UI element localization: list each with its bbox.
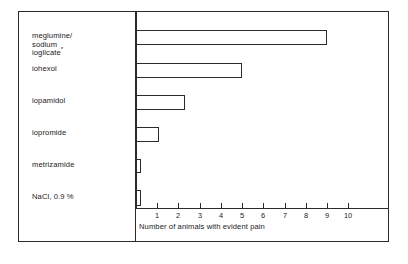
x-tick-label-3: 3 xyxy=(198,211,202,220)
bar-iohexol xyxy=(136,63,242,78)
x-tick-label-9: 9 xyxy=(325,211,329,220)
category-label-nacl: NaCl, 0.9 % xyxy=(32,193,132,202)
plot-area: 1 2 3 4 5 6 7 8 9 10 Number of animals w… xyxy=(136,12,388,241)
x-tick-label-1: 1 xyxy=(155,211,159,220)
bar-metrizamide xyxy=(136,159,141,173)
bar-iopromide xyxy=(136,127,159,142)
category-label-line3: ioglicate xyxy=(32,48,61,57)
x-tick-label-7: 7 xyxy=(283,211,287,220)
x-tick-5 xyxy=(242,203,243,208)
x-tick-label-8: 8 xyxy=(304,211,308,220)
x-tick-label-2: 2 xyxy=(176,211,180,220)
category-label-iopromide: iopromide xyxy=(32,129,132,138)
x-tick-3 xyxy=(200,203,201,208)
bar-meglumine-sodium-ioglicate xyxy=(136,30,327,45)
chart-figure: meglumine/sodiumioglicate* iohexol iopam… xyxy=(18,11,389,242)
x-axis-title: Number of animals with evident pain xyxy=(139,222,265,231)
x-tick-label-10: 10 xyxy=(344,211,352,220)
category-label-iopamidol: iopamidol xyxy=(32,97,132,106)
footnote-marker-icon: * xyxy=(61,47,63,53)
category-label-meglumine-sodium-ioglicate: meglumine/sodiumioglicate* xyxy=(32,32,132,58)
category-label-column: meglumine/sodiumioglicate* iohexol iopam… xyxy=(19,12,136,241)
x-tick-8 xyxy=(306,203,307,208)
x-tick-4 xyxy=(221,203,222,208)
x-tick-label-6: 6 xyxy=(261,211,265,220)
x-axis-line xyxy=(136,208,388,209)
x-tick-10 xyxy=(348,203,349,208)
category-label-iohexol: iohexol xyxy=(32,65,132,74)
category-label-metrizamide: metrizamide xyxy=(32,161,132,170)
x-tick-2 xyxy=(178,203,179,208)
x-tick-9 xyxy=(327,203,328,208)
bar-iopamidol xyxy=(136,95,185,110)
bar-nacl xyxy=(136,190,141,206)
x-tick-label-4: 4 xyxy=(219,211,223,220)
x-tick-7 xyxy=(285,203,286,208)
x-tick-6 xyxy=(263,203,264,208)
x-tick-1 xyxy=(157,203,158,208)
x-tick-label-5: 5 xyxy=(240,211,244,220)
